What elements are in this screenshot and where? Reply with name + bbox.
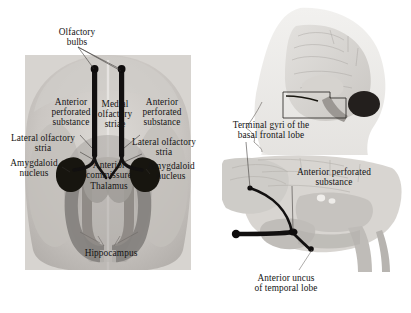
label-olfactory-bulbs: Olfactory bulbs	[46, 27, 108, 47]
label-thalamus: Thalamus	[80, 181, 138, 191]
label-anterior-uncus: Anterior uncus of temporal lobe	[238, 273, 334, 293]
label-amygdaloid-nucleus-right: Amygdaloid nucleus	[141, 161, 201, 181]
label-terminal-gyri: Terminal gyri of the basal frontal lobe	[221, 120, 321, 140]
figure-canvas: Olfactory bulbs Anterior perforated subs…	[0, 0, 411, 313]
label-lateral-olfactory-stria-left: Lateral olfactory stria	[5, 133, 81, 153]
label-anterior-perforated-sagittal: Anterior perforated substance	[285, 167, 383, 187]
label-hippocampus: Hippocampus	[74, 248, 148, 258]
label-anterior-perforated-right: Anterior perforated substance	[131, 97, 193, 128]
label-anterior-commissure: Anterior commissure	[78, 160, 140, 180]
label-lateral-olfactory-stria-right: Lateral olfactory stria	[126, 137, 202, 157]
label-amygdaloid-nucleus-left: Amygdaloid nucleus	[4, 158, 64, 178]
